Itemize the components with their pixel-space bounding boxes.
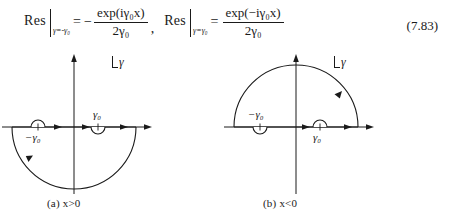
equation-separator: , — [149, 21, 165, 39]
numerator-left: exp(iγ₀x) — [94, 6, 148, 22]
evaluation-bar-left — [50, 9, 51, 37]
equation-row: Res γ=-γ₀ = − exp(iγ₀x) 2γ₀ , Res γ=γ₀ =… — [0, 6, 452, 48]
figure-page: Res γ=-γ₀ = − exp(iγ₀x) 2γ₀ , Res γ=γ₀ =… — [0, 0, 452, 220]
contour-arc-arrow-a — [26, 156, 33, 163]
evaluation-bar-right — [190, 9, 191, 37]
equation-number: (7.83) — [407, 18, 438, 34]
figure-b-canvas — [222, 52, 452, 202]
contour-arc-arrow-b — [335, 91, 343, 99]
real-segment-arrow-2-a — [82, 124, 90, 130]
denominator-right: 2γ₀ — [242, 23, 265, 39]
residue-left: Res γ=-γ₀ — [24, 8, 70, 36]
pole-label-minus-gamma0-a: −γ₀ — [25, 131, 41, 143]
imaginary-axis-arrow-a — [71, 54, 77, 62]
pole-label-gamma0-b: γ₀ — [313, 131, 321, 143]
pole-label-gamma0-a: γ₀ — [93, 108, 101, 120]
real-segment-arrow-3-a — [120, 124, 128, 130]
real-segment-arrow-1-a — [54, 124, 62, 130]
figure-b: γ −γ₀ γ₀ (b) x<0 — [222, 52, 452, 202]
plane-bracket-icon-b — [334, 56, 340, 68]
real-segment-arrow-2-b — [344, 124, 352, 130]
plane-label-b: γ — [334, 54, 346, 70]
res-subscript-right: γ=γ₀ — [193, 26, 207, 36]
fraction-right: exp(−iγ₀x) 2γ₀ — [223, 6, 284, 39]
res-label-left: Res — [24, 8, 46, 28]
plane-bracket-icon-a — [112, 56, 118, 68]
real-segment-arrow-1-b — [302, 124, 310, 130]
residue-right: Res γ=γ₀ — [164, 8, 207, 36]
caption-b: (b) x<0 — [263, 197, 297, 209]
real-axis-arrow-a — [144, 124, 152, 130]
res-subscript-left: γ=-γ₀ — [53, 26, 70, 36]
fraction-left: exp(iγ₀x) 2γ₀ — [94, 6, 148, 39]
plane-label-a: γ — [112, 54, 124, 70]
figure-a-canvas — [0, 52, 230, 202]
equals-left: = — [70, 14, 84, 30]
denominator-left: 2γ₀ — [109, 23, 132, 39]
plane-label-text-b: γ — [341, 55, 346, 69]
plane-label-text-a: γ — [119, 55, 124, 69]
res-label-right: Res — [164, 8, 186, 28]
equals-right: = — [208, 14, 222, 30]
real-axis-arrow-b — [366, 124, 374, 130]
caption-a: (a) x>0 — [47, 197, 81, 209]
numerator-right: exp(−iγ₀x) — [223, 6, 284, 22]
figure-a: γ −γ₀ γ₀ (a) x>0 — [0, 52, 230, 202]
equation-body: Res γ=-γ₀ = − exp(iγ₀x) 2γ₀ , Res γ=γ₀ =… — [24, 6, 285, 39]
minus-sign-left: − — [84, 14, 93, 30]
pole-label-minus-gamma0-b: −γ₀ — [248, 108, 264, 120]
imaginary-axis-arrow-b — [293, 54, 299, 62]
